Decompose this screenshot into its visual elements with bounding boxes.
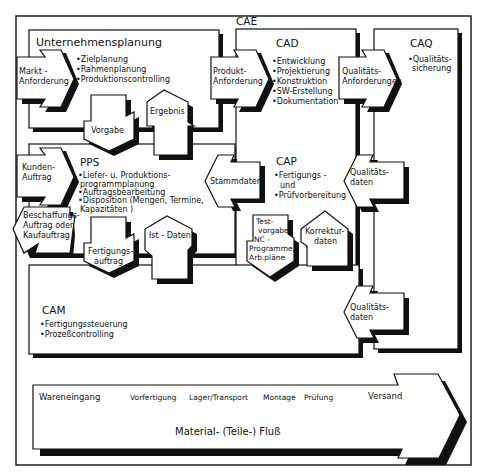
arrow-label: Kunden-	[22, 163, 55, 172]
station-versand: Versand	[368, 391, 402, 401]
pps-item: •Disposition (Mengen, Termine,	[78, 196, 204, 205]
station-montage: Montage	[263, 393, 296, 402]
arrow-label: Anforderungen	[342, 77, 402, 86]
cap-title: CAP	[276, 155, 297, 167]
cad-item: •SW-Erstellung	[272, 87, 333, 96]
cad-item: •Dokumentation	[272, 97, 338, 106]
arrow-label: Qualitäts-	[350, 303, 389, 312]
arrow-label: Ergebnis	[150, 107, 185, 116]
cam-title: CAM	[42, 304, 66, 316]
unternehmensplanung-title: Unternehmensplanung	[36, 36, 162, 49]
arrow-label: Ist - Daten	[149, 231, 191, 240]
cad-item: •Konstruktion	[272, 77, 327, 86]
arrow-label: Test-	[255, 217, 274, 226]
cap-item: und	[280, 181, 295, 190]
cam-item: •Prozeßcontrolling	[40, 330, 114, 339]
pps-item: •Liefer- u. Produktions-	[78, 171, 170, 180]
arrow-label: Arb.pläne	[249, 253, 286, 262]
station-lager-transport: Lager/Transport	[189, 393, 248, 402]
cap-item: •Fertigungs -	[274, 171, 326, 180]
arrow-label: Auftrag	[22, 173, 52, 182]
cad-item: •Entwicklung	[272, 57, 325, 66]
arrow-label: Korrektur-	[305, 227, 345, 236]
arrow-label: daten	[350, 178, 373, 187]
arrow-label: Stammdaten	[210, 177, 262, 186]
caq-title: CAQ	[410, 37, 433, 49]
pps-item: Kapazitäten )	[80, 205, 133, 214]
cae-label: CAE	[236, 15, 257, 27]
up-item: •Produktionscontrolling	[76, 75, 170, 84]
cam-item: •Fertigungssteuerung	[40, 320, 128, 329]
arrow-label: Kaufauftrag	[23, 231, 70, 240]
arrow-label: daten	[350, 313, 373, 322]
caq-item: sicherung	[412, 64, 451, 73]
arrow-label: auftrag	[94, 257, 123, 266]
arrow-beschaffungsauftrag: Beschaffungs- Auftrag oder Kaufauftrag	[13, 207, 80, 258]
arrow-label: Vorgabe	[91, 126, 124, 135]
arrow-label: Markt -	[19, 67, 47, 76]
station-vorfertigung: Vorfertigung	[130, 393, 177, 402]
arrow-label: Programme,	[249, 244, 295, 253]
arrow-label: vorgabe,	[258, 226, 291, 235]
arrow-label: NC -	[254, 235, 270, 244]
cad-title: CAD	[276, 37, 299, 49]
station-pruefung: Prüfung	[304, 393, 333, 402]
arrow-label: Beschaffungs-	[23, 211, 80, 220]
up-item: •Rahmenplanung	[76, 65, 146, 74]
arrow-label: Auftrag oder	[23, 221, 74, 230]
arrow-label: Anforderung	[19, 77, 69, 86]
material-flow-arrow: Wareneingang Vorfertigung Lager/Transpor…	[33, 374, 467, 465]
arrow-label: Qualitäts-	[350, 168, 389, 177]
cap-item: •Prüfvorbereitung	[274, 191, 346, 200]
module-cam	[29, 265, 363, 358]
up-item: •Zielplanung	[76, 55, 128, 64]
cad-item: •Projektierung	[272, 67, 330, 76]
material-flow-label: Material- (Teile-) Fluß	[175, 426, 280, 437]
cim-diagram: CAE Unternehmensplanung •Zielplanung •Ra…	[0, 0, 486, 476]
arrow-label: Produkt-	[213, 67, 247, 76]
arrow-label: Fertigungs-	[88, 247, 133, 256]
pps-title: PPS	[80, 156, 100, 168]
arrow-label: daten	[314, 237, 337, 246]
arrow-label: Anforderung	[213, 77, 263, 86]
caq-item: •Qualitäts-	[408, 55, 452, 64]
station-wareneingang: Wareneingang	[39, 392, 100, 402]
arrow-label: Qualitäts-	[342, 67, 381, 76]
